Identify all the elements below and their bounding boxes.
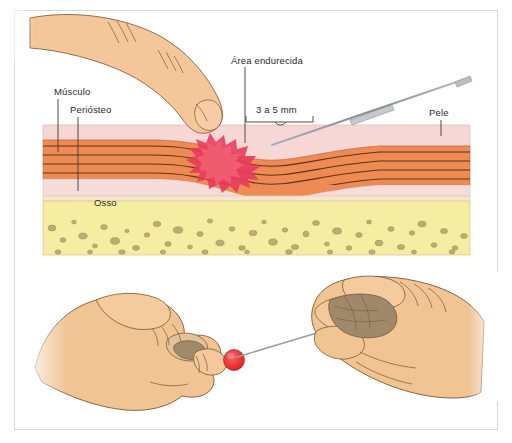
measurement-bracket-icon (246, 116, 313, 125)
hand-pinch-icon (312, 272, 498, 402)
bone-layer (43, 201, 470, 255)
illustration-canvas (0, 0, 512, 443)
label-area-endurecida: Área endurecida (231, 55, 303, 66)
label-musculo: Músculo (54, 86, 90, 97)
cross-section-panel (0, 8, 472, 255)
hands-panel (20, 272, 498, 418)
label-osso: Osso (94, 197, 117, 208)
label-pele: Pele (429, 107, 449, 118)
label-periosteo: Periósteo (70, 104, 111, 115)
hand-fist-icon (20, 288, 320, 418)
label-medida: 3 a 5 mm (256, 104, 297, 115)
illustration-figure: Área endurecida Músculo Periósteo 3 a 5 … (0, 0, 512, 443)
injection-site-icon (224, 350, 245, 371)
